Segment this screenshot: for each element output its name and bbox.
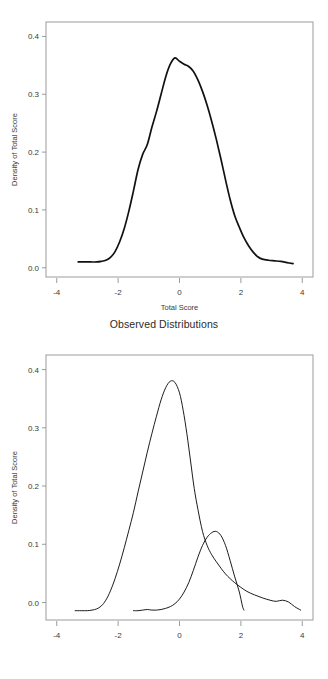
x-axis-tick-label: 0 — [177, 288, 182, 297]
observed-distributions-plot: 0.00.10.20.30.4-4-2024Total ScoreDensity… — [0, 0, 328, 318]
y-axis-title: Density of Total Score — [10, 451, 19, 524]
x-axis-title: Total Score — [161, 303, 199, 312]
density-curve-1 — [78, 58, 293, 264]
x-axis-title: Total Score — [161, 646, 199, 648]
y-axis-tick-label: 0.2 — [28, 148, 40, 157]
y-axis-tick-label: 0.0 — [28, 599, 40, 608]
y-axis-title: Density of Total Score — [10, 113, 19, 186]
density-curve-1 — [75, 381, 301, 611]
x-axis-tick-label: -4 — [53, 288, 61, 297]
observed-distributions-caption: Observed Distributions — [0, 318, 328, 331]
plot-frame — [46, 355, 313, 620]
y-axis-tick-label: 0.4 — [28, 366, 40, 375]
x-axis-tick-label: -2 — [115, 631, 123, 640]
y-axis-tick-label: 0.3 — [28, 424, 40, 433]
figure-observed-distributions: 0.00.10.20.30.4-4-2024Total ScoreDensity… — [0, 0, 328, 340]
figure-latent-distributions: 0.00.10.20.30.4-4-2024Total ScoreDensity… — [0, 340, 328, 679]
x-axis-tick-label: -2 — [115, 288, 123, 297]
latent-distributions-plot: 0.00.10.20.30.4-4-2024Total ScoreDensity… — [0, 340, 328, 648]
x-axis-tick-label: 2 — [239, 631, 244, 640]
y-axis-tick-label: 0.2 — [28, 482, 40, 491]
y-axis-tick-label: 0.0 — [28, 264, 40, 273]
x-axis-tick-label: 4 — [300, 288, 305, 297]
x-axis-tick-label: -4 — [53, 631, 61, 640]
y-axis-tick-label: 0.4 — [28, 32, 40, 41]
y-axis-tick-label: 0.1 — [28, 206, 40, 215]
y-axis-tick-label: 0.1 — [28, 540, 40, 549]
x-axis-tick-label: 2 — [239, 288, 244, 297]
x-axis-tick-label: 4 — [300, 631, 305, 640]
y-axis-tick-label: 0.3 — [28, 90, 40, 99]
density-curve-2 — [133, 531, 243, 610]
x-axis-tick-label: 0 — [177, 631, 182, 640]
